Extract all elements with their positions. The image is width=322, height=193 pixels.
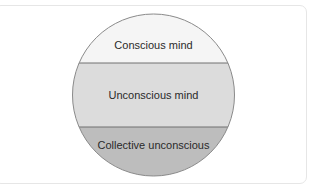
layer-conscious-mind <box>60 10 250 63</box>
label-conscious-mind: Conscious mind <box>114 39 192 51</box>
label-collective-unconscious: Collective unconscious <box>98 139 210 151</box>
layer-collective-unconscious <box>60 127 250 187</box>
label-unconscious-mind: Unconscious mind <box>109 89 199 101</box>
psyche-layers-diagram: Conscious mind Unconscious mind Collecti… <box>0 0 322 193</box>
